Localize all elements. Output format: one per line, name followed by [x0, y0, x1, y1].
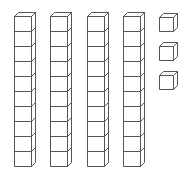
unit-cube	[160, 72, 178, 90]
unit-cubes-group	[160, 14, 178, 90]
tens-rod	[88, 13, 109, 167]
cube-front-face	[160, 76, 174, 90]
tens-rod	[15, 13, 36, 167]
unit-cube	[160, 14, 178, 32]
cube-side-face	[174, 43, 178, 61]
cube-side-face	[174, 72, 178, 90]
cube-front-face	[160, 18, 174, 32]
base-ten-blocks-diagram	[0, 0, 185, 177]
tens-rods-group	[15, 13, 145, 167]
tens-rod	[51, 13, 72, 167]
cube-side-face	[174, 14, 178, 32]
unit-cube	[160, 43, 178, 61]
tens-rod	[124, 13, 145, 167]
cube-front-face	[160, 47, 174, 61]
